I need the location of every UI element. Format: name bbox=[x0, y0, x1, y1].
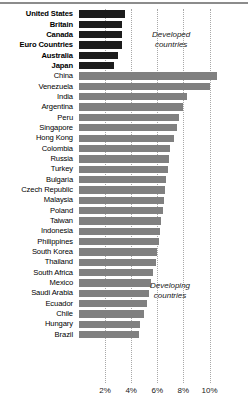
bar-row: South Korea bbox=[0, 247, 248, 257]
bar bbox=[79, 145, 170, 152]
bar bbox=[79, 217, 161, 224]
bar-label: Australia bbox=[0, 52, 76, 60]
bar-row: Thailand bbox=[0, 257, 248, 267]
bar bbox=[79, 31, 122, 38]
bar-row: Peru bbox=[0, 112, 248, 122]
x-tick-label: 4% bbox=[125, 386, 137, 396]
bar-row: Turkey bbox=[0, 164, 248, 174]
bar-label: Peru bbox=[0, 114, 76, 122]
bar-row: Singapore bbox=[0, 123, 248, 133]
bar bbox=[79, 228, 160, 235]
bar-label: Ecuador bbox=[0, 300, 76, 308]
bar-label: Saudi Arabia bbox=[0, 289, 76, 297]
bar-row: Chile bbox=[0, 309, 248, 319]
bar-track bbox=[76, 309, 248, 319]
bar bbox=[79, 124, 177, 131]
bar bbox=[79, 155, 169, 162]
bar-row: Euro Countries bbox=[0, 40, 248, 50]
bar bbox=[79, 103, 183, 110]
bar-row: Taiwan bbox=[0, 216, 248, 226]
bar-label: Philippines bbox=[0, 238, 76, 246]
bar-label: Singapore bbox=[0, 124, 76, 132]
bar-track bbox=[76, 185, 248, 195]
bar bbox=[79, 166, 168, 173]
bar-track bbox=[76, 123, 248, 133]
bar-row: Japan bbox=[0, 61, 248, 71]
bar bbox=[79, 207, 163, 214]
bar-track bbox=[76, 50, 248, 60]
x-tick-label: 6% bbox=[152, 386, 164, 396]
bar bbox=[79, 186, 165, 193]
bar-row: United States bbox=[0, 9, 248, 19]
bar bbox=[79, 248, 157, 255]
bar-label: Indonesia bbox=[0, 227, 76, 235]
bar bbox=[79, 331, 139, 338]
bar-track bbox=[76, 330, 248, 340]
bar-track bbox=[76, 216, 248, 226]
bar-track bbox=[76, 175, 248, 185]
bar-track bbox=[76, 206, 248, 216]
bar-label: Canada bbox=[0, 31, 76, 39]
bar-track bbox=[76, 195, 248, 205]
bar-row: Czech Republic bbox=[0, 185, 248, 195]
bar-label: Hong Kong bbox=[0, 134, 76, 142]
bar-track bbox=[76, 226, 248, 236]
bar-label: Malaysia bbox=[0, 196, 76, 204]
chart-root: United StatesBritainCanadaEuro Countries… bbox=[0, 0, 248, 419]
annotation-developed-line1: Developed bbox=[152, 30, 190, 40]
x-tick-label: 8% bbox=[178, 386, 190, 396]
bar-row: Venezuela bbox=[0, 81, 248, 91]
bar-track bbox=[76, 268, 248, 278]
bar-row: Hungary bbox=[0, 319, 248, 329]
bar-label: Venezuela bbox=[0, 83, 76, 91]
plot-area: United StatesBritainCanadaEuro Countries… bbox=[0, 9, 248, 383]
bar-row: Mexico bbox=[0, 278, 248, 288]
bar-track bbox=[76, 112, 248, 122]
bar-row: Ecuador bbox=[0, 299, 248, 309]
bar bbox=[79, 62, 114, 69]
bar-track bbox=[76, 164, 248, 174]
annotation-developing-line1: Developing bbox=[150, 281, 190, 291]
bar bbox=[79, 93, 187, 100]
annotation-developing-countries: Developing countries bbox=[150, 281, 190, 300]
bar-label: Poland bbox=[0, 207, 76, 215]
bar-label: Thailand bbox=[0, 258, 76, 266]
bar-row: Philippines bbox=[0, 237, 248, 247]
bar-track bbox=[76, 92, 248, 102]
bar-row: Russia bbox=[0, 154, 248, 164]
bar-row: Hong Kong bbox=[0, 133, 248, 143]
bar-row: Australia bbox=[0, 50, 248, 60]
bar-label: Bulgaria bbox=[0, 176, 76, 184]
bar-row: Britain bbox=[0, 19, 248, 29]
bar-label: Russia bbox=[0, 155, 76, 163]
bar-label: Turkey bbox=[0, 165, 76, 173]
bar-label: Taiwan bbox=[0, 217, 76, 225]
bar-label: Euro Countries bbox=[0, 41, 76, 49]
bar-label: Colombia bbox=[0, 145, 76, 153]
bar-label: India bbox=[0, 93, 76, 101]
bar bbox=[79, 114, 179, 121]
bar-label: Brazil bbox=[0, 331, 76, 339]
bar-row: Saudi Arabia bbox=[0, 288, 248, 298]
bar bbox=[79, 52, 118, 59]
bar-label: South Korea bbox=[0, 248, 76, 256]
bar-label: Chile bbox=[0, 310, 76, 318]
bar-row: Indonesia bbox=[0, 226, 248, 236]
bar-track bbox=[76, 237, 248, 247]
bar-track bbox=[76, 102, 248, 112]
bar bbox=[79, 279, 151, 286]
x-axis: 2%4%6%8%10% bbox=[0, 386, 248, 400]
bar bbox=[79, 21, 122, 28]
bar bbox=[79, 290, 149, 297]
bar-row: Poland bbox=[0, 206, 248, 216]
bar-track bbox=[76, 319, 248, 329]
bar-label: China bbox=[0, 72, 76, 80]
bar-track bbox=[76, 257, 248, 267]
bar-row: China bbox=[0, 71, 248, 81]
bar-row: Brazil bbox=[0, 330, 248, 340]
bar bbox=[79, 83, 210, 90]
annotation-developed-line2: countries bbox=[152, 40, 190, 50]
bar-row: Argentina bbox=[0, 102, 248, 112]
bar-label: Hungary bbox=[0, 320, 76, 328]
bar-row: Bulgaria bbox=[0, 175, 248, 185]
